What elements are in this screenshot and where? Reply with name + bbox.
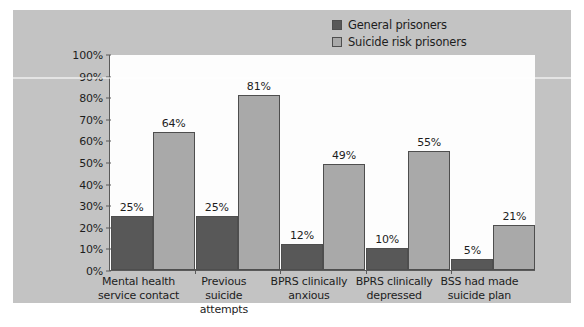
y-axis-tick-label: 100% xyxy=(72,49,103,62)
category-label-line: Mental health xyxy=(96,275,181,289)
figure-container: General prisoners Suicide risk prisoners… xyxy=(0,0,584,327)
legend-label-general: General prisoners xyxy=(348,18,447,32)
legend-label-risk: Suicide risk prisoners xyxy=(348,35,467,49)
category-label-line: BPRS clinically xyxy=(352,275,437,289)
category-label-line: anxious xyxy=(266,289,351,303)
bar-value-label: 81% xyxy=(247,80,271,93)
x-axis-tick-mark xyxy=(451,269,452,274)
y-axis-tick-label: 50% xyxy=(79,157,103,170)
category-label-line: depressed xyxy=(352,289,437,303)
y-axis-tick-label: 20% xyxy=(79,221,103,234)
legend-swatch-icon-general xyxy=(332,20,342,30)
bar-value-label: 25% xyxy=(120,201,144,214)
bar[interactable]: 21% xyxy=(493,225,535,270)
bar[interactable]: 64% xyxy=(153,132,195,270)
x-axis-tick-mark xyxy=(280,269,281,274)
category-label-line: BPRS clinically xyxy=(266,275,351,289)
bar[interactable]: 49% xyxy=(323,164,365,270)
bar-value-label: 5% xyxy=(464,244,481,257)
category-label-line: suicide plan xyxy=(437,289,522,303)
legend-item-general-prisoners: General prisoners xyxy=(332,18,467,32)
x-axis-category-label: BPRS clinicallyanxious xyxy=(266,275,351,303)
legend-item-suicide-risk-prisoners: Suicide risk prisoners xyxy=(332,35,467,49)
bar-group: 12%49% xyxy=(280,55,365,270)
bar-group: 25%81% xyxy=(195,55,280,270)
y-axis-tick-label: 70% xyxy=(79,113,103,126)
y-axis-tick-label: 40% xyxy=(79,178,103,191)
bar[interactable]: 25% xyxy=(111,216,153,270)
bar[interactable]: 5% xyxy=(451,259,493,270)
category-label-line: service contact xyxy=(96,289,181,303)
category-label-line: attempts xyxy=(181,303,266,317)
bar-value-label: 12% xyxy=(290,229,314,242)
bar-group: 5%21% xyxy=(451,55,536,270)
x-axis-category-label: BSS had madesuicide plan xyxy=(437,275,522,303)
x-axis-category-label: Mental healthservice contact xyxy=(96,275,181,303)
bar-value-label: 64% xyxy=(162,117,186,130)
bar-groups: 25%64%25%81%12%49%10%55%5%21% xyxy=(110,55,535,270)
bar[interactable]: 55% xyxy=(408,151,450,270)
y-axis-tick-label: 80% xyxy=(79,92,103,105)
y-axis-tick-label: 90% xyxy=(79,70,103,83)
chart-legend: General prisoners Suicide risk prisoners xyxy=(326,14,473,56)
bar-value-label: 49% xyxy=(332,149,356,162)
bar[interactable]: 12% xyxy=(281,244,323,270)
bar-value-label: 10% xyxy=(375,233,399,246)
plot-area: 0%10%20%30%40%50%60%70%80%90%100% 25%64%… xyxy=(109,55,535,271)
bar-group: 25%64% xyxy=(110,55,195,270)
y-axis-tick-label: 30% xyxy=(79,200,103,213)
bar-value-label: 25% xyxy=(205,201,229,214)
x-axis-category-label: BPRS clinicallydepressed xyxy=(352,275,437,303)
bar[interactable]: 25% xyxy=(196,216,238,270)
chart-panel: General prisoners Suicide risk prisoners… xyxy=(13,10,571,303)
category-label-line: Previous suicide xyxy=(181,275,266,303)
x-axis-tick-mark xyxy=(366,269,367,274)
y-axis-tick-label: 10% xyxy=(79,243,103,256)
x-axis-tick-mark xyxy=(195,269,196,274)
bar[interactable]: 10% xyxy=(366,248,408,270)
y-axis-tick-label: 60% xyxy=(79,135,103,148)
bar-value-label: 21% xyxy=(502,210,526,223)
bar[interactable]: 81% xyxy=(238,95,280,270)
bar-value-label: 55% xyxy=(417,136,441,149)
y-axis-tick-mark xyxy=(106,271,111,272)
x-axis-category-label: Previous suicideattempts xyxy=(181,275,266,317)
legend-swatch-icon-risk xyxy=(332,37,342,47)
bar-group: 10%55% xyxy=(366,55,451,270)
category-label-line: BSS had made xyxy=(437,275,522,289)
